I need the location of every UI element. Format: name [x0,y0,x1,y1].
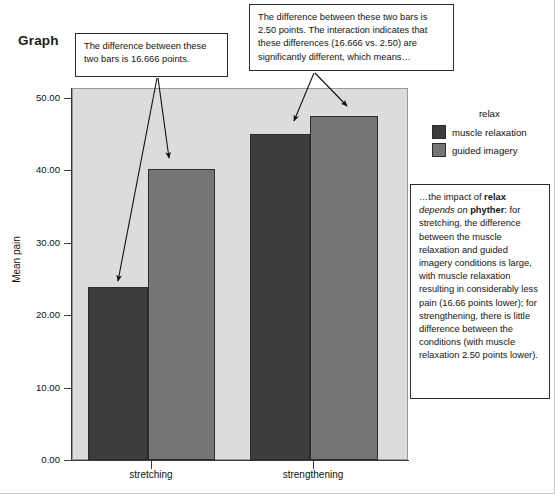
page-title: Graph [18,33,59,48]
bar-strengthening-muscle-relaxation [250,134,310,460]
callout-right-bold-phyther: phyther [470,205,504,215]
callout-left-difference: The difference between these two bars is… [75,33,228,77]
x-tick-stretching [151,461,152,469]
legend: relax muscle relaxation guided imagery [432,108,527,161]
y-tick-label-50: 50.00 [12,92,60,103]
callout-top-interaction: The difference between these two bars is… [249,4,454,71]
legend-swatch-guided-imagery [432,143,446,157]
callout-right-explanation: …the impact of relax depends on phyther:… [410,184,550,399]
y-axis-title: Mean pain [11,210,22,310]
legend-label-muscle-relaxation: muscle relaxation [452,127,527,138]
callout-right-bold-relax: relax [484,192,506,202]
callout-right-italic-depends: depends on [419,205,470,215]
y-tick-20 [64,315,71,316]
y-tick-label-10: 10.00 [12,382,60,393]
callout-right-text-2: : for stretching, the difference between… [419,205,538,360]
x-axis-line [71,460,409,461]
y-tick-label-20: 20.00 [12,309,60,320]
y-tick-40 [64,170,71,171]
y-tick-30 [64,243,71,244]
callout-right-text-1: …the impact of [419,192,484,202]
y-tick-10 [64,388,71,389]
y-tick-0 [64,460,71,461]
bar-strengthening-guided-imagery [310,116,378,460]
y-tick-label-40: 40.00 [12,164,60,175]
legend-item-muscle-relaxation: muscle relaxation [432,125,527,139]
bar-stretching-muscle-relaxation [88,287,148,460]
y-axis-line [71,88,72,461]
y-tick-label-0: 0.00 [12,454,60,465]
y-tick-50 [64,98,71,99]
x-label-stretching: stretching [86,469,216,480]
x-tick-strengthening [313,461,314,469]
x-label-strengthening: strengthening [248,469,378,480]
bar-stretching-guided-imagery [148,169,215,460]
legend-title: relax [452,108,527,119]
legend-item-guided-imagery: guided imagery [432,143,527,157]
legend-label-guided-imagery: guided imagery [452,145,518,156]
legend-swatch-muscle-relaxation [432,125,446,139]
